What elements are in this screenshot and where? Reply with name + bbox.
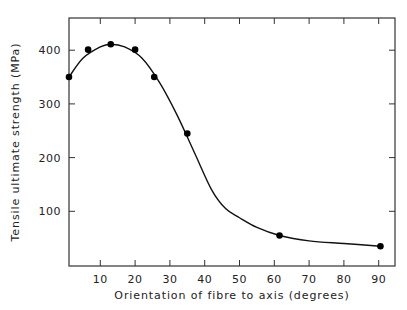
data-point [276,232,283,239]
plot-frame [69,18,395,266]
data-point [377,243,384,250]
x-tick-label: 70 [302,273,317,286]
x-tick-label: 40 [197,273,212,286]
y-axis-label: Tensile ultimate strength (MPa) [9,43,22,243]
y-tick-label: 100 [39,205,62,218]
y-tick-label: 200 [39,152,62,165]
data-point [85,46,92,53]
x-tick-label: 60 [267,273,282,286]
x-tick-label: 90 [371,273,386,286]
y-axis-ticks: 100200300400 [39,44,396,218]
x-tick-label: 20 [128,273,143,286]
y-tick-label: 400 [39,44,62,57]
data-point [184,130,191,137]
y-tick-label: 300 [39,98,62,111]
data-point [151,74,158,81]
data-points [66,41,384,250]
chart: 102030405060708090 100200300400 Orientat… [0,0,407,310]
x-axis-ticks: 102030405060708090 [93,18,386,286]
fitted-curve [69,44,380,246]
x-tick-label: 10 [93,273,108,286]
data-point [132,46,139,53]
x-axis-label: Orientation of fibre to axis (degrees) [114,289,349,302]
x-tick-label: 30 [162,273,177,286]
x-tick-label: 50 [232,273,247,286]
x-tick-label: 80 [336,273,351,286]
data-point [107,41,114,48]
data-point [66,74,73,81]
